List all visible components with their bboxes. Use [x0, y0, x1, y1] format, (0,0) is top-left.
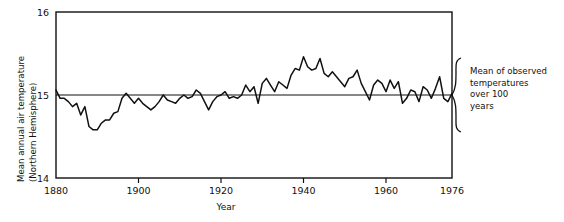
x-axis-title: Year [0, 202, 452, 212]
y-axis-title-line1: Mean annual air temperature [16, 56, 27, 182]
annotation-brace [452, 58, 461, 132]
chart-figure: 188019001920194019601976 141516 Mean ann… [0, 0, 564, 222]
annotation-line-2: temperatures [470, 78, 564, 90]
annotation-line-3: over 100 [470, 89, 564, 101]
x-tick-label: 1900 [126, 185, 150, 196]
y-axis-title-line2: (Northern Hemisphere) [28, 83, 39, 182]
annotation-line-1: Mean of observed [470, 66, 564, 78]
y-axis-title: Mean annual air temperature (Northern He… [2, 10, 42, 190]
x-tick-label: 1880 [44, 185, 68, 196]
x-tick-label: 1940 [291, 185, 315, 196]
x-tick-label: 1960 [374, 185, 398, 196]
annotation-line-4: years [470, 101, 564, 113]
temperature-series-line [56, 57, 452, 130]
reference-line-annotation: Mean of observed temperatures over 100 y… [470, 66, 564, 112]
x-axis-ticks: 188019001920194019601976 [44, 178, 464, 196]
x-tick-label: 1920 [209, 185, 233, 196]
x-tick-label: 1976 [440, 185, 464, 196]
